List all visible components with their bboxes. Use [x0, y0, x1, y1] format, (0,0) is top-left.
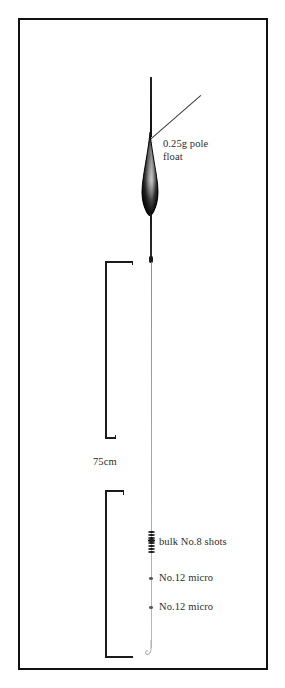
bulk-shots-label: bulk No.8 shots	[159, 535, 227, 548]
float-label: 0.25g pole float	[163, 137, 208, 163]
float-stem	[150, 214, 152, 258]
micro-shot-lower-label: No.12 micro	[159, 600, 213, 613]
micro-shot-lower	[149, 606, 153, 609]
bracket-serif	[115, 435, 117, 440]
micro-shot-upper	[149, 577, 153, 580]
depth-measurement-label: 75cm	[93, 455, 117, 468]
bracket-serif	[123, 490, 125, 495]
bulk-shot	[148, 534, 155, 536]
micro-shot-upper-label: No.12 micro	[159, 571, 213, 584]
bulk-shot	[148, 548, 155, 550]
bracket-serif	[132, 261, 134, 265]
figure-border	[18, 18, 268, 670]
depth-bracket-upper	[105, 261, 133, 439]
depth-bracket-lower	[105, 490, 133, 658]
float-antenna	[150, 77, 152, 137]
bulk-shot-group	[148, 531, 155, 553]
bulk-shot	[148, 531, 155, 533]
hook-icon	[143, 640, 161, 660]
bulk-shot	[148, 551, 155, 553]
pole-float-rig-figure: 0.25g pole float 75cm bulk No.8 shots No…	[0, 0, 285, 688]
bulk-shot	[148, 545, 155, 547]
main-line	[151, 262, 152, 648]
